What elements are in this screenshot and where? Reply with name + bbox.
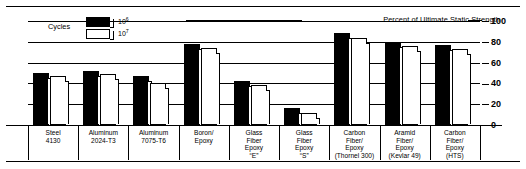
- bar-group: [179, 14, 229, 125]
- x-category-label: Boron/ Epoxy: [179, 129, 229, 144]
- bar-group: [380, 14, 430, 125]
- bar-cycles-10e6: [184, 44, 200, 125]
- x-category-separator: [380, 126, 381, 160]
- x-category-separator: [430, 126, 431, 160]
- y-tick-label: 80: [491, 37, 501, 47]
- bar-group: [78, 14, 128, 125]
- x-axis-category-labels: Steel 4130Aluminum 2024-T3Aluminum 7075-…: [6, 126, 520, 161]
- x-category-separator: [279, 126, 280, 160]
- bar-group: [329, 14, 379, 125]
- bar-cycles-10e6: [33, 73, 49, 125]
- bar-cycles-10e7: [452, 49, 468, 125]
- x-category-separator: [179, 126, 180, 160]
- y-tick-dash: [482, 42, 489, 43]
- bar-shadow: [115, 79, 119, 124]
- bar-cycles-10e7: [50, 76, 66, 125]
- figure-bottom-rule: [6, 161, 520, 162]
- y-tick-80: 80: [482, 37, 501, 48]
- x-category-separator: [480, 126, 481, 160]
- bar-cycles-10e6: [334, 33, 350, 125]
- x-category-separator: [28, 126, 29, 160]
- bar-shadow: [417, 51, 421, 124]
- bar-cycles-10e6: [284, 108, 300, 125]
- bar-group: [128, 14, 178, 125]
- bar-cycles-10e7: [301, 113, 317, 125]
- bar-cycles-10e7: [150, 83, 166, 125]
- x-category-label: Glass Fiber Epoxy “S”: [279, 129, 329, 159]
- bar-shadow: [216, 53, 220, 124]
- x-category-separator: [329, 126, 330, 160]
- bar-cycles-10e7: [100, 74, 116, 125]
- bar-cycles-10e7: [402, 46, 418, 125]
- x-category-separator: [229, 126, 230, 160]
- x-category-label: Steel 4130: [28, 129, 78, 144]
- bar-cycles-10e6: [133, 76, 149, 125]
- figure-top-rule: [6, 6, 520, 7]
- x-category-separator: [78, 126, 79, 160]
- bar-group: [430, 14, 480, 125]
- bar-cycles-10e7: [201, 48, 217, 125]
- y-tick-20: 20: [482, 99, 501, 110]
- bar-cycles-10e7: [251, 85, 267, 125]
- x-category-label: Glass Fiber Epoxy “E”: [229, 129, 279, 159]
- bar-cycles-10e6: [435, 45, 451, 125]
- bar-cycles-10e6: [385, 42, 401, 125]
- y-tick-label: 100: [491, 16, 506, 26]
- plot-area: [28, 14, 480, 126]
- y-tick-dash: [482, 21, 489, 22]
- bar-shadow: [165, 88, 169, 124]
- bar-group: [279, 14, 329, 125]
- y-tick-label: 40: [491, 78, 501, 88]
- bar-shadow: [366, 43, 370, 124]
- bar-group: [229, 14, 279, 125]
- x-category-label: Aluminum 2024-T3: [78, 129, 128, 144]
- y-tick-label: 20: [491, 99, 501, 109]
- bar-cycles-10e7: [351, 38, 367, 125]
- fatigue-strength-bar-chart: Percent of Ultimate Static Strength Cycl…: [0, 0, 526, 169]
- bar-shadow: [65, 81, 69, 124]
- x-category-label: Carbon Fiber/ Epoxy (HTS): [430, 129, 480, 159]
- y-tick-dash: [482, 84, 489, 85]
- bar-cycles-10e6: [234, 81, 250, 125]
- bar-group: [28, 14, 78, 125]
- bar-cycles-10e6: [83, 71, 99, 125]
- bar-shadow: [266, 90, 270, 124]
- bar-shadow: [467, 54, 471, 124]
- y-tick-40: 40: [482, 78, 501, 89]
- y-tick-dash: [482, 63, 489, 64]
- y-axis-tick-labels: 020406080100: [482, 14, 526, 130]
- y-tick-60: 60: [482, 58, 501, 69]
- y-tick-label: 60: [491, 58, 501, 68]
- bar-shadow: [316, 118, 320, 124]
- x-category-label: Aramid Fiber/ Epoxy (Kevlar 49): [380, 129, 430, 159]
- x-category-label: Carbon Fiber/ Epoxy (Thornel 300): [329, 129, 379, 159]
- y-tick-dash: [482, 104, 489, 105]
- y-tick-100: 100: [482, 16, 506, 27]
- x-category-label: Aluminum 7075-T6: [128, 129, 178, 144]
- x-category-separator: [128, 126, 129, 160]
